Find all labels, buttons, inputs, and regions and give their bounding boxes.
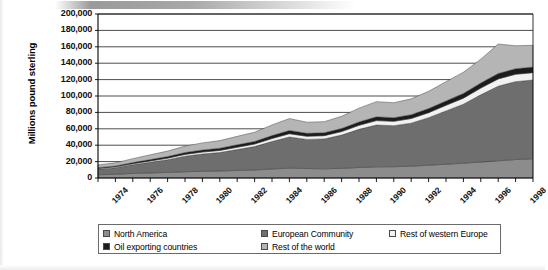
legend-label-oil-exporting-countries: Oil exporting countries	[114, 242, 197, 252]
legend-label-european-community: European Community	[272, 229, 353, 239]
legend-swatch-icon-north-america	[103, 230, 110, 237]
legend-label-rest-of-western-europe: Rest of western Europe	[400, 229, 488, 239]
legend-row-1: North America European Community Rest of…	[103, 227, 500, 240]
legend-label-north-america: North America	[114, 229, 167, 239]
legend-swatch-icon-rest-of-the-world	[261, 243, 268, 250]
legend-item-rest-of-western-europe: Rest of western Europe	[389, 229, 488, 239]
legend-item-north-america: North America	[103, 229, 261, 239]
legend-swatch-icon-rest-of-western-europe	[389, 230, 396, 237]
legend-item-oil-exporting-countries: Oil exporting countries	[103, 242, 261, 252]
legend-label-rest-of-the-world: Rest of the world	[272, 242, 335, 252]
legend-item-rest-of-the-world: Rest of the world	[261, 242, 389, 252]
legend-row-2: Oil exporting countries Rest of the worl…	[103, 240, 500, 253]
chart-legend: North America European Community Rest of…	[98, 224, 501, 254]
legend-swatch-icon-oil-exporting-countries	[103, 243, 110, 250]
legend-item-european-community: European Community	[261, 229, 389, 239]
legend-swatch-icon-european-community	[261, 230, 268, 237]
